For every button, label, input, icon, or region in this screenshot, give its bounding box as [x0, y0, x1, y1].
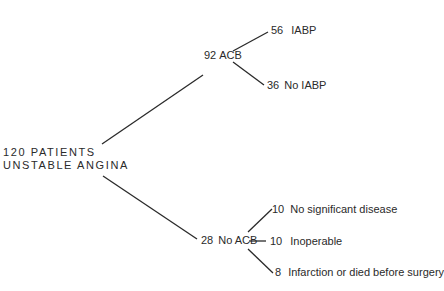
node-label: IABP — [291, 24, 316, 36]
edge-no-acb-to-no-disease — [248, 209, 272, 232]
node-label: Infarction or died before surgery — [288, 266, 444, 278]
node-count: 10 — [270, 235, 282, 247]
root-count-label: 120 PATIENTS — [3, 146, 129, 159]
node-iabp: 56IABP — [271, 24, 316, 36]
node-count: 56 — [271, 24, 283, 36]
node-count: 92 — [204, 49, 216, 61]
node-label: ACB — [219, 49, 242, 61]
node-infarction: 8Infarction or died before surgery — [275, 266, 444, 278]
node-label: No IABP — [284, 79, 326, 91]
node-count: 8 — [275, 266, 281, 278]
edge-acb-to-no-iabp — [233, 62, 264, 85]
node-label: No significant disease — [290, 203, 397, 215]
edge-root-to-acb — [102, 75, 203, 144]
node-count: 36 — [267, 79, 279, 91]
node-no-acb: 28No ACB — [201, 234, 257, 246]
root-node: 120 PATIENTS UNSTABLE ANGINA — [3, 146, 129, 172]
node-no-significant-disease: 10No significant disease — [272, 203, 397, 215]
node-label: Inoperable — [290, 235, 342, 247]
node-count: 28 — [201, 234, 213, 246]
node-no-iabp: 36No IABP — [267, 79, 326, 91]
node-acb: 92ACB — [204, 49, 242, 61]
node-count: 10 — [272, 203, 284, 215]
edge-no-acb-to-infarction — [248, 249, 273, 273]
root-condition-label: UNSTABLE ANGINA — [3, 159, 129, 172]
node-label: No ACB — [218, 234, 257, 246]
edge-root-to-no-acb — [103, 176, 197, 239]
node-inoperable: 10Inoperable — [270, 235, 342, 247]
